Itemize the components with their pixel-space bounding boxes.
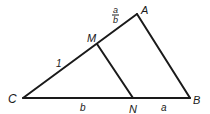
edge-label-MA-numerator: a	[113, 5, 118, 15]
edge-label-MA-denominator: b	[113, 15, 118, 25]
segment-AB	[137, 14, 190, 98]
edge-label-NB: a	[161, 102, 167, 113]
segment-MN	[97, 44, 133, 98]
diagram-canvas: C A B M N 1 a b b a	[0, 0, 210, 114]
point-label-N: N	[129, 103, 137, 114]
segment-CA	[23, 14, 137, 98]
edge-label-CM: 1	[56, 58, 62, 69]
point-label-B: B	[193, 94, 200, 106]
point-label-C: C	[8, 92, 17, 106]
edge-label-CN: b	[80, 102, 86, 113]
triangle-diagram: C A B M N 1 a b b a	[0, 0, 210, 114]
point-label-A: A	[140, 4, 148, 16]
point-label-M: M	[87, 32, 97, 44]
